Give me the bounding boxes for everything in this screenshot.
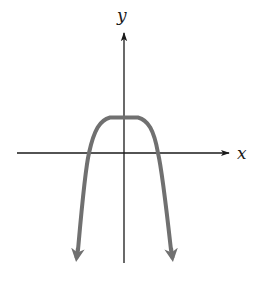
curve-right-end-arrow-icon	[171, 248, 172, 258]
x-axis-label: x	[237, 143, 247, 163]
curve-left-end-arrow-icon	[77, 248, 78, 258]
y-axis-label: y	[116, 5, 127, 25]
graph-canvas: x y	[0, 0, 256, 282]
